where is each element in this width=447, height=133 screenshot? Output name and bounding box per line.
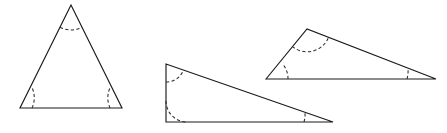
triangles-figure (0, 0, 447, 133)
triangles-svg-canvas (0, 0, 447, 133)
